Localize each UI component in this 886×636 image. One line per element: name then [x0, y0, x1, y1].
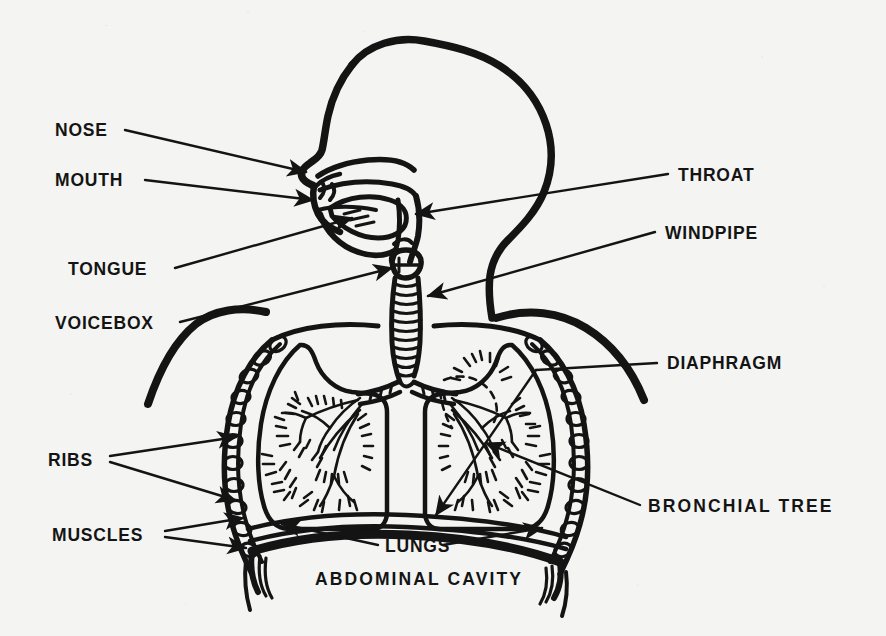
leader-voicebox [180, 268, 392, 322]
respiratory-system-diagram: NOSE MOUTH TONGUE VOICEBOX RIBS MUSCLES … [0, 0, 886, 636]
leader-mouth [145, 180, 313, 200]
label-tongue: TONGUE [68, 259, 147, 279]
label-bronchial-tree: BRONCHIAL TREE [648, 496, 834, 516]
label-diaphragm: DIAPHRAGM [667, 353, 782, 373]
windpipe-trachea [392, 278, 421, 382]
bronchial-tree-left [262, 392, 373, 512]
diagram-page: NOSE MOUTH TONGUE VOICEBOX RIBS MUSCLES … [0, 0, 886, 636]
head-profile [301, 40, 551, 318]
label-windpipe: WINDPIPE [665, 223, 758, 243]
label-muscles: MUSCLES [52, 525, 143, 545]
label-nose: NOSE [55, 120, 108, 140]
label-mouth: MOUTH [55, 170, 123, 190]
label-voicebox: VOICEBOX [55, 313, 154, 333]
label-abdominal-cavity: ABDOMINAL CAVITY [315, 569, 523, 589]
label-ribs: RIBS [48, 450, 93, 470]
label-lungs: LUNGS [385, 536, 450, 556]
label-throat: THROAT [678, 165, 754, 185]
voicebox-larynx [392, 250, 421, 278]
leader-tongue [175, 218, 352, 268]
leader-windpipe [428, 232, 655, 296]
leader-throat [416, 174, 668, 214]
leader-bronchial-tree [486, 443, 640, 505]
leader-nose [125, 130, 306, 172]
leader-ribs-1 [110, 437, 236, 456]
leader-ribs-2 [110, 462, 235, 500]
